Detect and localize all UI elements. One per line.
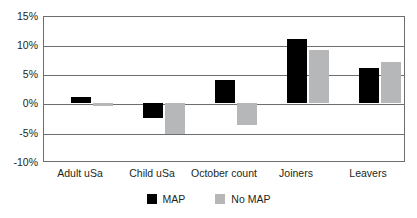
bar-map-october-count[interactable] [215, 80, 235, 103]
y-tick-label: 10% [0, 40, 38, 51]
bar-nomap-child-usa[interactable] [165, 103, 185, 134]
bar-map-joiners[interactable] [287, 39, 307, 103]
bar-group-adult-usa [61, 16, 123, 162]
bar-group-joiners [277, 16, 339, 162]
x-tick-label-leavers: Leavers [325, 167, 411, 179]
bar-map-child-usa[interactable] [143, 103, 163, 118]
legend-item-no-map[interactable]: No MAP [215, 194, 270, 205]
legend-label-map: MAP [163, 194, 186, 205]
y-tick-label: -10% [0, 157, 38, 168]
legend-label-no-map: No MAP [231, 194, 270, 205]
chart-legend: MAP No MAP [0, 194, 417, 205]
y-tick-label: -5% [0, 128, 38, 139]
y-tick-label: 5% [0, 69, 38, 80]
bar-nomap-leavers[interactable] [381, 62, 401, 103]
grouped-bar-chart: 15% 10% 5% 0% -5% -10% [0, 0, 417, 218]
bar-map-leavers[interactable] [359, 68, 379, 103]
bar-nomap-adult-usa[interactable] [93, 103, 113, 106]
y-tick-label: 15% [0, 11, 38, 22]
legend-item-map[interactable]: MAP [147, 194, 186, 205]
bar-group-october-count [205, 16, 267, 162]
bar-nomap-october-count[interactable] [237, 103, 257, 125]
y-tick-label: 0% [0, 98, 38, 109]
bar-nomap-joiners[interactable] [309, 50, 329, 103]
bar-group-leavers [349, 16, 411, 162]
black-square-swatch-icon [147, 194, 157, 204]
bars-layer [43, 16, 405, 162]
bar-group-child-usa [133, 16, 195, 162]
gray-square-swatch-icon [215, 194, 225, 204]
bar-map-adult-usa[interactable] [71, 97, 91, 103]
